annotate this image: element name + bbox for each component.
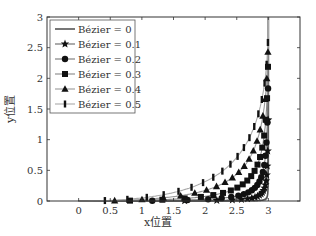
legend-label: Bézier = 0.5 [78, 99, 141, 110]
x-tick-label: 1.5 [166, 205, 182, 216]
y-axis-label: y位置 [3, 95, 17, 124]
x-tick-label: 0 [75, 205, 81, 216]
y-tick-label: 2 [37, 73, 43, 84]
x-tick-label: 1 [139, 205, 145, 216]
x-tick-label: 0.5 [102, 205, 118, 216]
x-tick-label: 3 [265, 205, 271, 216]
legend: Bézier = 0Bézier = 0.1Bézier = 0.2Bézier… [50, 20, 141, 113]
y-tick-label: 0.5 [27, 165, 43, 176]
x-tick-label: 2 [202, 205, 208, 216]
y-tick-label: 1 [37, 134, 43, 145]
x-axis-label: x位置 [144, 215, 172, 229]
y-tick-label: 2.5 [27, 42, 43, 53]
legend-label: Bézier = 0.1 [78, 39, 141, 50]
y-tick-label: 3 [37, 12, 43, 23]
x-tick-label: 2.5 [229, 205, 245, 216]
y-tick-label: 0 [37, 196, 43, 207]
legend-label: Bézier = 0.2 [78, 54, 141, 65]
y-tick-label: 1.5 [27, 104, 43, 115]
chart: 00.511.522.53 00.511.522.53 x位置 y位置 Bézi… [0, 0, 316, 236]
legend-label: Bézier = 0.3 [78, 69, 141, 80]
legend-label: Bézier = 0.4 [78, 84, 141, 95]
legend-label: Bézier = 0 [78, 24, 132, 35]
